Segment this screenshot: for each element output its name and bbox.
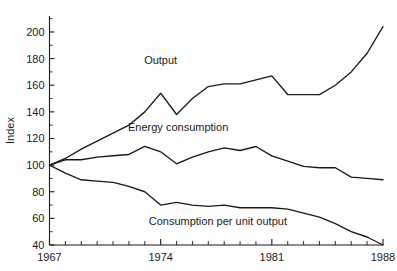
y-axis-tick-label: 40	[32, 239, 44, 251]
x-axis-tick-label: 1974	[148, 251, 172, 263]
series-line-2	[50, 146, 384, 179]
y-axis-tick-label: 80	[32, 186, 44, 198]
y-axis-tick-label: 200	[26, 26, 44, 38]
chart-plot-area: 4060801001201401601802001967197419811988…	[0, 0, 397, 271]
y-axis-tick-label: 60	[32, 212, 44, 224]
y-axis-tick-label: 100	[26, 159, 44, 171]
y-axis-tick-label: 180	[26, 53, 44, 65]
series-line-1	[50, 27, 384, 165]
y-axis-tick-label: 140	[26, 106, 44, 118]
y-axis-title: Index	[4, 117, 16, 144]
y-axis-tick-label: 160	[26, 79, 44, 91]
line-chart: 4060801001201401601802001967197419811988…	[0, 0, 397, 271]
y-axis-tick-label: 120	[26, 132, 44, 144]
series-label-3: Consumption per unit output	[149, 215, 287, 227]
series-label-2: Energy consumption	[128, 121, 228, 133]
series-line-3	[50, 165, 384, 245]
x-axis-tick-label: 1981	[260, 251, 284, 263]
x-axis-tick-label: 1988	[371, 251, 395, 263]
series-label-1: Output	[144, 54, 177, 66]
x-axis-tick-label: 1967	[37, 251, 61, 263]
